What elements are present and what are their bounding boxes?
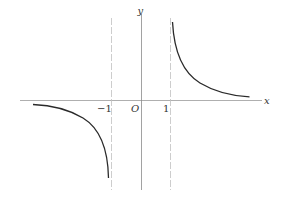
tick-label-neg1: −1	[97, 103, 112, 114]
x-axis-label: x	[264, 95, 270, 106]
tick-label-pos1: 1	[163, 103, 169, 114]
curve-right-branch	[173, 22, 250, 97]
y-axis-label: y	[137, 5, 144, 16]
curve-left-branch	[33, 105, 109, 179]
origin-label: O	[131, 103, 139, 114]
chart-canvas: y x O −1 1	[0, 0, 285, 203]
